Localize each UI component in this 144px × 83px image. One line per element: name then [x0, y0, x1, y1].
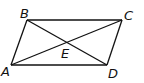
side-ab: [11, 20, 27, 65]
label-c: C: [124, 8, 134, 23]
label-e: E: [61, 46, 70, 61]
side-cd: [107, 20, 122, 65]
label-a: A: [0, 64, 10, 79]
parallelogram-diagram: B C A E D: [0, 0, 144, 83]
label-d: D: [108, 66, 118, 81]
label-b: B: [20, 6, 29, 21]
